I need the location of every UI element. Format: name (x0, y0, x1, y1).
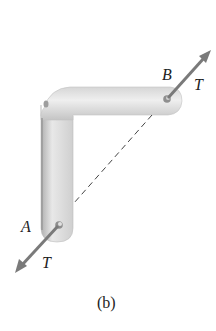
force-arrow-b-icon (168, 50, 211, 98)
figure-caption: (b) (97, 294, 116, 312)
two-force-member-diagram: B T A T (b) (0, 0, 216, 331)
label-point-a: A (20, 218, 31, 235)
line-of-action (74, 115, 152, 203)
bracket-notch (44, 101, 49, 108)
bracket-horizontal-arm (41, 87, 182, 120)
label-point-b: B (162, 66, 172, 83)
label-force-a: T (42, 254, 52, 271)
bracket-vertical-arm (41, 105, 73, 242)
label-force-b: T (194, 76, 204, 93)
bent-bracket (41, 87, 182, 242)
